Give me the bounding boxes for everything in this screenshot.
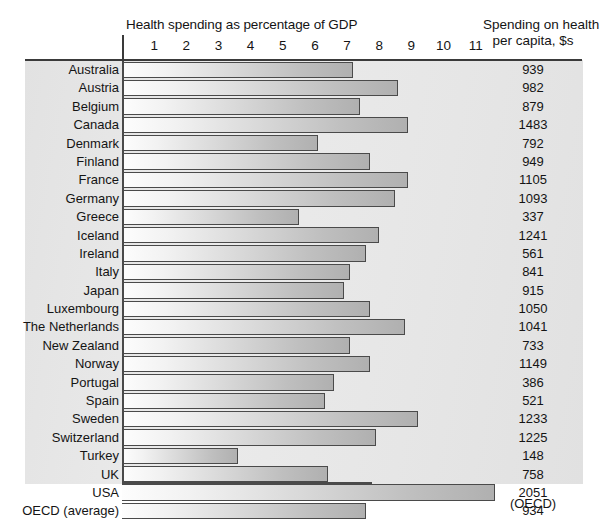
per-capita-value: 1149 (483, 356, 583, 371)
bar (122, 282, 344, 298)
chart-row: Italy841 (0, 263, 608, 281)
country-label: OECD (average) (0, 503, 119, 518)
per-capita-value: 386 (483, 375, 583, 390)
x-axis-tick-5: 5 (271, 38, 295, 53)
bar (122, 62, 353, 78)
per-capita-value: 1105 (483, 172, 583, 187)
country-label: Spain (0, 393, 119, 408)
chart-rows: Australia939Austria982Belgium879Canada14… (0, 61, 608, 520)
chart-row: Ireland561 (0, 245, 608, 263)
country-label: Turkey (0, 448, 119, 463)
x-axis-tick-6: 6 (303, 38, 327, 53)
chart-row: France1105 (0, 171, 608, 189)
bar (122, 98, 360, 114)
bar (122, 503, 366, 519)
per-capita-value: 879 (483, 99, 583, 114)
bar (122, 301, 370, 317)
chart-row: Canada1483 (0, 116, 608, 134)
country-label: Austria (0, 80, 119, 95)
chart-row: Turkey148 (0, 447, 608, 465)
per-capita-value: 1233 (483, 411, 583, 426)
per-capita-value: 1050 (483, 301, 583, 316)
per-capita-value: 1225 (483, 430, 583, 445)
bar (122, 190, 395, 206)
x-axis-tick-9: 9 (399, 38, 423, 53)
bar (122, 356, 370, 372)
bar (122, 209, 299, 225)
country-label: Iceland (0, 228, 119, 243)
chart-right-title-line1: Spending on health (483, 17, 583, 33)
country-label: The Netherlands (0, 319, 119, 334)
per-capita-value: 733 (483, 338, 583, 353)
bar (122, 466, 328, 482)
chart-bottom-rule (122, 482, 372, 484)
chart-row: New Zealand733 (0, 337, 608, 355)
country-label: UK (0, 467, 119, 482)
bar (122, 319, 405, 335)
bar (122, 172, 408, 188)
chart-row: Denmark792 (0, 135, 608, 153)
country-label: Portugal (0, 375, 119, 390)
axis-origin-line (122, 61, 124, 484)
bar (122, 153, 370, 169)
chart-row: Norway1149 (0, 355, 608, 373)
chart-row: Portugal386 (0, 374, 608, 392)
x-axis-tick-4: 4 (239, 38, 263, 53)
bar (122, 227, 379, 243)
per-capita-value: 521 (483, 393, 583, 408)
x-axis-tick-11: 11 (464, 38, 488, 53)
chart-row: Belgium879 (0, 98, 608, 116)
chart-row: Austria982 (0, 79, 608, 97)
per-capita-value: 949 (483, 154, 583, 169)
per-capita-value: 561 (483, 246, 583, 261)
x-axis-tick-1: 1 (142, 38, 166, 53)
chart-row: The Netherlands1041 (0, 318, 608, 336)
chart-row: Greece337 (0, 208, 608, 226)
health-spending-chart: Health spending as percentage of GDP Spe… (0, 0, 608, 520)
x-axis-tick-10: 10 (432, 38, 456, 53)
bar (122, 245, 366, 261)
country-label: New Zealand (0, 338, 119, 353)
bar (122, 448, 238, 464)
chart-row: Luxembourg1050 (0, 300, 608, 318)
x-axis-tick-labels: 1234567891011 (0, 38, 608, 56)
per-capita-value: 337 (483, 209, 583, 224)
bar (122, 264, 350, 280)
x-axis-tick-3: 3 (206, 38, 230, 53)
country-label: Japan (0, 283, 119, 298)
per-capita-value: 841 (483, 264, 583, 279)
per-capita-value: 1483 (483, 117, 583, 132)
chart-row: Spain521 (0, 392, 608, 410)
country-label: Greece (0, 209, 119, 224)
country-label: Sweden (0, 411, 119, 426)
chart-left-title: Health spending as percentage of GDP (126, 17, 357, 32)
per-capita-value: 915 (483, 283, 583, 298)
chart-row: Germany1093 (0, 190, 608, 208)
chart-row: Australia939 (0, 61, 608, 79)
source-attribution: (OECD) (483, 496, 583, 511)
country-label: Australia (0, 62, 119, 77)
per-capita-value: 792 (483, 136, 583, 151)
per-capita-value: 1241 (483, 228, 583, 243)
bar (122, 429, 376, 445)
bar (122, 135, 318, 151)
x-axis-tick-7: 7 (335, 38, 359, 53)
country-label: Norway (0, 356, 119, 371)
bar (122, 484, 495, 500)
per-capita-value: 939 (483, 62, 583, 77)
country-label: Canada (0, 117, 119, 132)
country-label: Belgium (0, 99, 119, 114)
bar (122, 117, 408, 133)
x-axis-tick-2: 2 (174, 38, 198, 53)
country-label: Italy (0, 264, 119, 279)
country-label: Switzerland (0, 430, 119, 445)
country-label: Luxembourg (0, 301, 119, 316)
country-label: USA (0, 485, 119, 500)
chart-row: Japan915 (0, 282, 608, 300)
country-label: Denmark (0, 136, 119, 151)
per-capita-value: 758 (483, 467, 583, 482)
country-label: Finland (0, 154, 119, 169)
chart-row: Finland949 (0, 153, 608, 171)
chart-row: Sweden1233 (0, 410, 608, 428)
bar (122, 374, 334, 390)
